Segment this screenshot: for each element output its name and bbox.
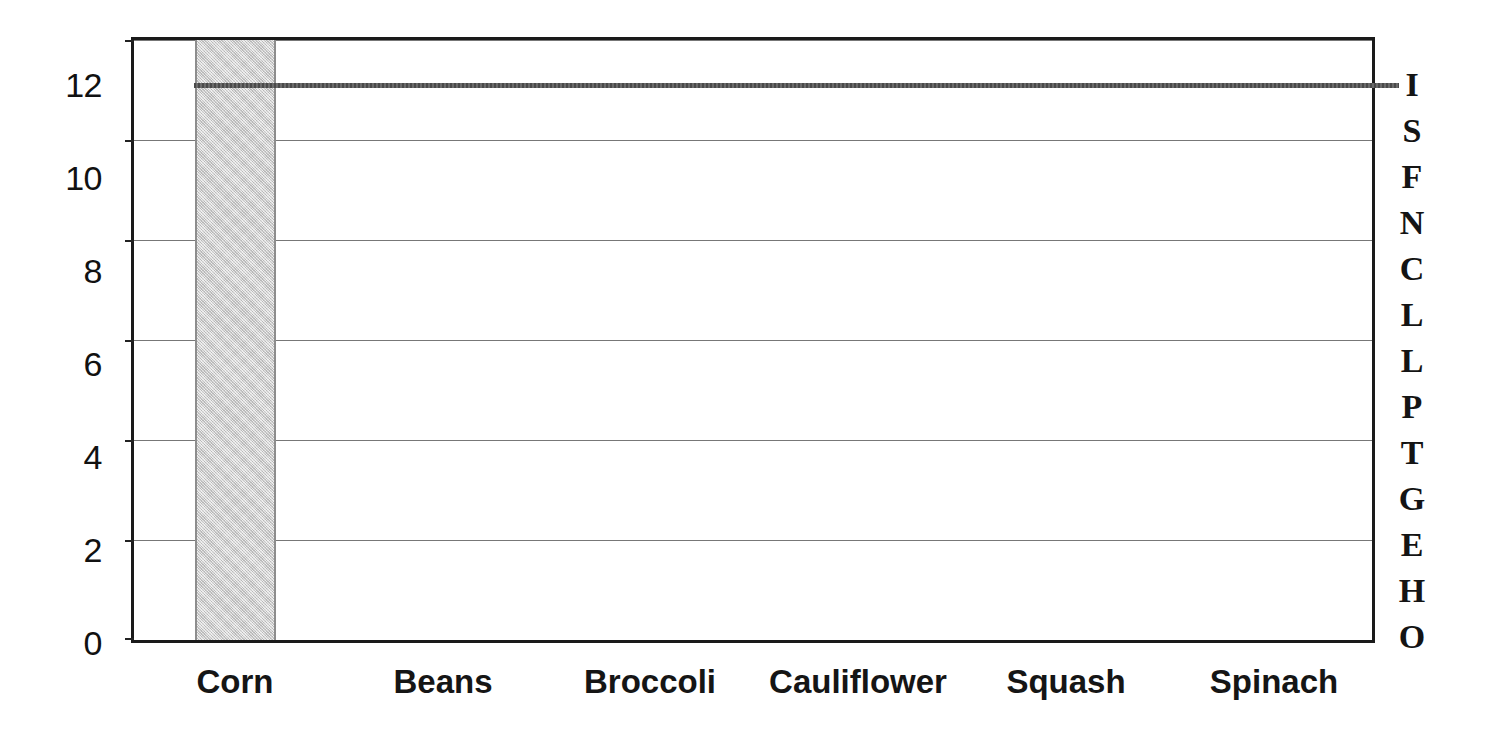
y-axis-tick: [125, 638, 134, 640]
bar-corn: [195, 40, 276, 640]
x-tick-label-spinach: Spinach: [1210, 663, 1338, 701]
y-axis-tick: [125, 340, 134, 342]
y-axis-tick: [125, 140, 134, 142]
reference-line-12: [194, 83, 1399, 88]
gridline-y-2: [134, 540, 1372, 541]
gridline-y-6: [134, 340, 1372, 341]
legend-letter: O: [1392, 620, 1432, 654]
x-tick-label-broccoli: Broccoli: [584, 663, 716, 701]
legend-letter: G: [1392, 482, 1432, 516]
plot-area: [131, 37, 1375, 643]
legend-letter: S: [1392, 114, 1432, 148]
y-axis-tick: [125, 40, 134, 42]
legend-letter: I: [1392, 68, 1432, 102]
plot-inner: [134, 40, 1372, 640]
y-axis-tick: [125, 440, 134, 442]
y-tick-label: 10: [0, 161, 102, 195]
chart-canvas: 12 10 8 6 4 2 0: [0, 0, 1497, 737]
x-tick-label-squash: Squash: [1006, 663, 1125, 701]
gridline-y-8: [134, 240, 1372, 241]
legend-letter: T: [1392, 436, 1432, 470]
x-tick-label-cauliflower: Cauliflower: [769, 663, 947, 701]
legend-letter: P: [1392, 390, 1432, 424]
x-tick-label-beans: Beans: [393, 663, 492, 701]
y-axis-tick: [125, 540, 134, 542]
legend-letter: L: [1392, 344, 1432, 378]
gridline-y-12: [134, 40, 1372, 41]
y-axis-tick: [125, 240, 134, 242]
y-tick-label: 8: [0, 254, 102, 288]
y-tick-label: 12: [0, 68, 102, 102]
y-tick-label: 2: [0, 533, 102, 567]
x-tick-label-corn: Corn: [197, 663, 274, 701]
legend-letter: L: [1392, 298, 1432, 332]
gridline-y-4: [134, 440, 1372, 441]
y-tick-label: 0: [0, 626, 102, 660]
y-tick-label: 6: [0, 347, 102, 381]
legend-letter: H: [1392, 574, 1432, 608]
legend-letter: F: [1392, 160, 1432, 194]
legend-letter: E: [1392, 528, 1432, 562]
y-tick-label: 4: [0, 440, 102, 474]
legend-letter: N: [1392, 206, 1432, 240]
gridline-y-10: [134, 140, 1372, 141]
legend-letter: C: [1392, 252, 1432, 286]
